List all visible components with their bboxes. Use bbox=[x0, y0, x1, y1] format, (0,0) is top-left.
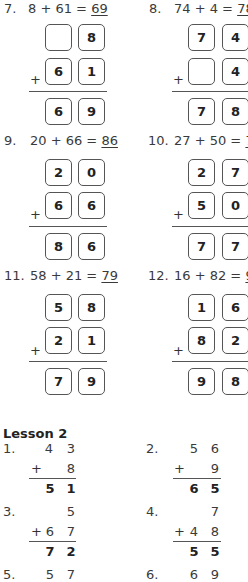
problem-number: 12. bbox=[148, 268, 169, 283]
problem-number: 6. bbox=[146, 567, 158, 582]
digit: 5 bbox=[65, 504, 77, 519]
digit-result: 1 bbox=[65, 481, 77, 496]
problem-number: 11. bbox=[4, 268, 25, 283]
digit-box[interactable]: 1 bbox=[188, 294, 215, 321]
plus-sign: + bbox=[31, 461, 42, 476]
answer: 79 bbox=[101, 268, 118, 283]
digit-box[interactable]: 6 bbox=[45, 58, 72, 85]
sum-line bbox=[29, 91, 107, 92]
digit: 8 bbox=[65, 461, 77, 476]
digit-box[interactable]: 2 bbox=[188, 159, 215, 186]
sum-line bbox=[172, 361, 248, 362]
digit: 3 bbox=[65, 441, 77, 456]
digit-box[interactable]: 1 bbox=[78, 327, 105, 354]
equation: 20 + 66 = 86 bbox=[30, 133, 118, 148]
problem-number: 1. bbox=[3, 441, 15, 456]
digit-result: 2 bbox=[65, 544, 77, 559]
plus-sign: + bbox=[30, 72, 41, 87]
answer: 86 bbox=[101, 133, 118, 148]
digit-box[interactable]: 2 bbox=[222, 327, 248, 354]
equation: 58 + 21 = 79 bbox=[30, 268, 118, 283]
digit-box[interactable]: 2 bbox=[45, 159, 72, 186]
digit-box[interactable]: 4 bbox=[222, 58, 248, 85]
problem-number: 9. bbox=[4, 133, 16, 148]
digit-box[interactable]: 0 bbox=[222, 192, 248, 219]
digit-box[interactable]: 1 bbox=[78, 58, 105, 85]
digit-box[interactable]: 8 bbox=[78, 294, 105, 321]
digit-box[interactable]: 7 bbox=[188, 98, 215, 125]
sum-line bbox=[173, 541, 221, 542]
digit: 9 bbox=[209, 567, 221, 582]
plus-sign: + bbox=[173, 343, 184, 358]
digit-result: 5 bbox=[209, 544, 221, 559]
digit-box[interactable]: 4 bbox=[222, 24, 248, 51]
digit-box-empty[interactable] bbox=[188, 58, 215, 85]
digit-box[interactable]: 7 bbox=[45, 368, 72, 395]
sum-line bbox=[29, 226, 107, 227]
sum-line bbox=[173, 478, 221, 479]
digit-box[interactable]: 8 bbox=[188, 327, 215, 354]
equation: 8 + 61 = 69 bbox=[28, 1, 108, 16]
digit-box[interactable]: 0 bbox=[78, 159, 105, 186]
problem-number: 7. bbox=[4, 1, 16, 16]
digit: 6 bbox=[188, 567, 200, 582]
digit-box[interactable]: 6 bbox=[78, 192, 105, 219]
digit-result: 5 bbox=[188, 544, 200, 559]
plus-sign: + bbox=[30, 207, 41, 222]
digit: 7 bbox=[65, 524, 77, 539]
digit-box[interactable]: 8 bbox=[45, 233, 72, 260]
digit-result: 5 bbox=[44, 481, 56, 496]
answer: 98 bbox=[245, 268, 248, 283]
sum-line bbox=[29, 478, 76, 479]
plus-sign: + bbox=[30, 343, 41, 358]
answer: 77 bbox=[245, 133, 248, 148]
plus-sign: + bbox=[174, 461, 185, 476]
answer: 69 bbox=[91, 1, 108, 16]
digit: 6 bbox=[44, 524, 56, 539]
problem-number: 3. bbox=[3, 504, 15, 519]
digit-box[interactable]: 9 bbox=[78, 98, 105, 125]
digit-result: 6 bbox=[188, 481, 200, 496]
digit-box[interactable]: 6 bbox=[45, 192, 72, 219]
plus-sign: + bbox=[173, 72, 184, 87]
digit-result: 5 bbox=[209, 481, 221, 496]
digit-box[interactable]: 7 bbox=[188, 24, 215, 51]
digit-box[interactable]: 9 bbox=[78, 368, 105, 395]
problem-number: 5. bbox=[3, 567, 15, 582]
digit: 8 bbox=[209, 524, 221, 539]
digit: 4 bbox=[188, 524, 200, 539]
plus-sign: + bbox=[173, 207, 184, 222]
digit: 7 bbox=[65, 567, 77, 582]
digit: 5 bbox=[188, 441, 200, 456]
digit-box[interactable]: 6 bbox=[78, 233, 105, 260]
problem-number: 2. bbox=[146, 441, 158, 456]
digit-box[interactable]: 6 bbox=[45, 98, 72, 125]
sum-line bbox=[29, 361, 107, 362]
sum-line bbox=[29, 541, 76, 542]
equation: 74 + 4 = 78 bbox=[174, 1, 248, 16]
equation: 16 + 82 = 98 bbox=[174, 268, 248, 283]
problem-number: 8. bbox=[149, 1, 161, 16]
digit-box[interactable]: 8 bbox=[222, 368, 248, 395]
digit-box[interactable]: 5 bbox=[45, 294, 72, 321]
sum-line bbox=[172, 226, 248, 227]
digit-result: 7 bbox=[44, 544, 56, 559]
digit: 6 bbox=[209, 441, 221, 456]
digit-box-empty[interactable] bbox=[45, 24, 72, 51]
digit: 4 bbox=[43, 441, 55, 456]
digit-box[interactable]: 8 bbox=[78, 24, 105, 51]
digit-box[interactable]: 9 bbox=[188, 368, 215, 395]
digit-box[interactable]: 2 bbox=[45, 327, 72, 354]
equation: 27 + 50 = 77 bbox=[174, 133, 248, 148]
digit-box[interactable]: 8 bbox=[222, 98, 248, 125]
lesson-title: Lesson 2 bbox=[3, 426, 67, 441]
digit-box[interactable]: 6 bbox=[222, 294, 248, 321]
digit-box[interactable]: 5 bbox=[188, 192, 215, 219]
digit-box[interactable]: 7 bbox=[188, 233, 215, 260]
problem-number: 4. bbox=[146, 504, 158, 519]
digit-box[interactable]: 7 bbox=[222, 159, 248, 186]
plus-sign: + bbox=[31, 524, 42, 539]
digit-box[interactable]: 7 bbox=[222, 233, 248, 260]
answer: 78 bbox=[237, 1, 248, 16]
digit: 5 bbox=[44, 567, 56, 582]
